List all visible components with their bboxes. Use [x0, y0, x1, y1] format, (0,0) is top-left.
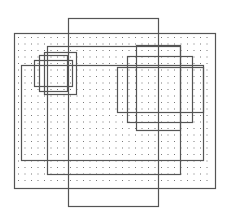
dot-grid	[18, 37, 208, 181]
rect-right-small-1	[118, 68, 204, 113]
rect-left-small-1	[35, 61, 73, 87]
rect-left-small-3	[45, 53, 77, 95]
diagram-canvas	[0, 0, 227, 222]
rectangles-diagram	[0, 0, 227, 222]
